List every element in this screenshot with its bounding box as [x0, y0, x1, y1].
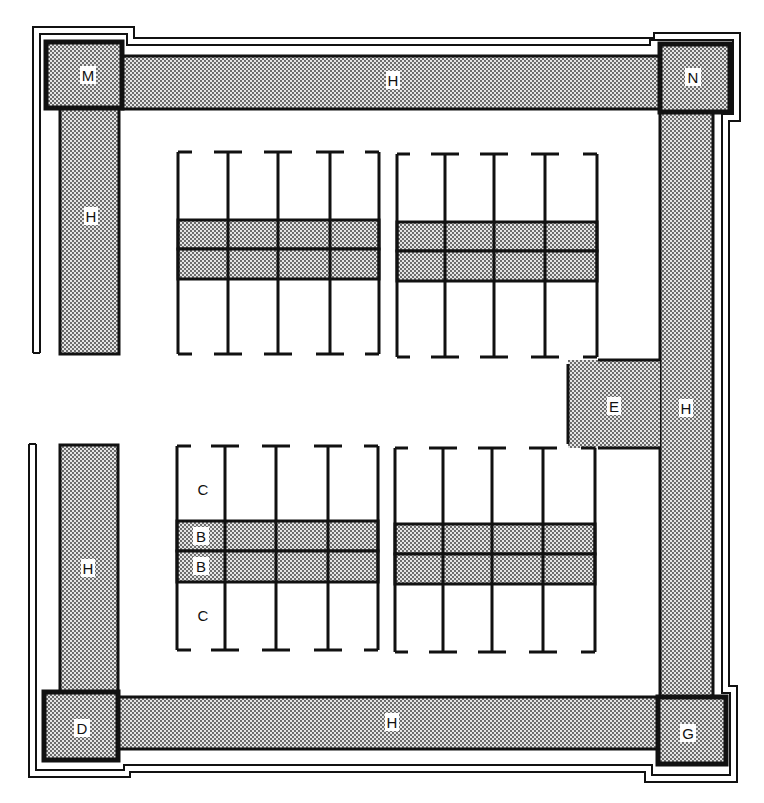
- label-h-top: H: [388, 72, 399, 89]
- label-d: D: [77, 720, 88, 737]
- floor-plan-diagram: M H N H E H H C B B C D H G: [0, 0, 764, 803]
- label-h-bottom: H: [387, 714, 398, 731]
- label-h-right: H: [681, 400, 692, 417]
- label-e: E: [609, 398, 619, 415]
- stall-block-lower-right: [395, 448, 595, 652]
- label-m: M: [82, 67, 95, 84]
- label-g: G: [682, 725, 694, 742]
- label-b-lower: B: [196, 558, 206, 575]
- label-c-lower: C: [198, 607, 209, 624]
- label-c-upper: C: [198, 481, 209, 498]
- stall-block-upper-right: [397, 154, 597, 357]
- label-h-left-lower: H: [83, 560, 94, 577]
- label-n: N: [688, 69, 699, 86]
- label-h-left-upper: H: [86, 208, 97, 225]
- band-h-left-upper: [60, 108, 119, 354]
- label-b-upper: B: [196, 528, 206, 545]
- stall-block-upper-left: [178, 152, 379, 354]
